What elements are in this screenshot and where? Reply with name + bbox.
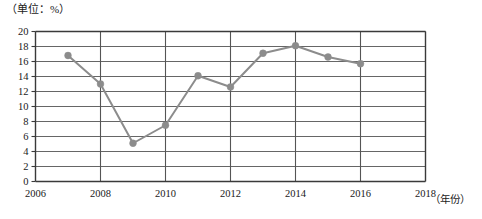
y-tick-label: 18 <box>18 41 29 52</box>
data-point-marker <box>292 42 299 49</box>
x-tick-label: 2012 <box>220 188 241 199</box>
data-point-marker <box>65 52 72 59</box>
y-tick-label: 8 <box>23 116 28 127</box>
data-point-marker <box>195 72 202 79</box>
y-tick-label: 6 <box>23 131 28 142</box>
x-tick-label: 2016 <box>350 188 371 199</box>
x-axis-title: （年份） <box>430 193 470 205</box>
line-chart: （单位：%） 02468101214161820 200620082010201… <box>0 0 482 219</box>
x-tick-label: 2014 <box>285 188 307 199</box>
x-axis-ticks: 2006200820102012201420162018 <box>25 188 436 199</box>
y-tick-label: 0 <box>23 176 28 187</box>
y-tick-label: 2 <box>23 161 28 172</box>
data-point-marker <box>130 140 137 147</box>
y-axis-ticks: 02468101214161820 <box>18 26 36 187</box>
data-point-marker <box>162 122 169 129</box>
x-tick-label: 2008 <box>90 188 111 199</box>
y-tick-label: 14 <box>18 71 29 82</box>
data-point-marker <box>97 81 104 88</box>
data-point-marker <box>260 50 267 57</box>
chart-plot-area: 02468101214161820 2006200820102012201420… <box>0 0 482 219</box>
y-tick-label: 16 <box>18 56 29 67</box>
y-tick-label: 20 <box>18 26 29 37</box>
y-tick-label: 4 <box>23 146 29 157</box>
data-series-line <box>68 46 361 144</box>
data-point-marker <box>357 60 364 67</box>
data-point-marker <box>227 84 234 91</box>
x-tick-label: 2006 <box>25 188 46 199</box>
data-point-marker <box>325 54 332 61</box>
y-tick-label: 12 <box>18 86 29 97</box>
series-polyline <box>68 46 361 144</box>
data-point-markers <box>65 42 364 146</box>
x-tick-label: 2010 <box>155 188 176 199</box>
y-tick-label: 10 <box>18 101 29 112</box>
